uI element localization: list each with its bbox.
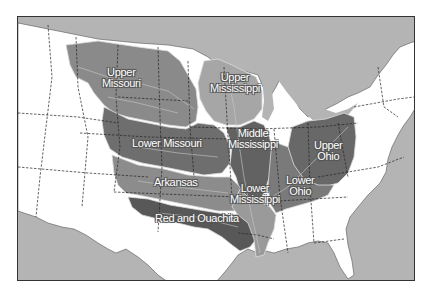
label-line: Mississippi (210, 83, 260, 94)
label-lower-ohio: Lower Ohio (286, 175, 314, 197)
label-arkansas: Arkansas (154, 177, 197, 188)
label-line: Missouri (102, 78, 141, 89)
label-upper-ohio: Upper Ohio (314, 140, 342, 162)
label-line: Ohio (314, 151, 342, 162)
label-red-and-ouachita: Red and Ouachita (155, 213, 239, 224)
label-lower-mississippi: Lower Mississippi (230, 183, 280, 205)
map-frame: Upper Missouri Upper Mississippi Lower M… (17, 16, 415, 281)
label-upper-missouri: Upper Missouri (102, 67, 141, 89)
label-line: Mississippi (228, 139, 278, 150)
label-line: Red and Ouachita (155, 213, 239, 224)
label-line: Lower Missouri (132, 138, 202, 149)
label-middle-mississippi: Middle Mississippi (228, 128, 278, 150)
label-line: Arkansas (154, 177, 197, 188)
basin-map (18, 17, 415, 281)
label-line: Ohio (286, 186, 314, 197)
label-line: Mississippi (230, 194, 280, 205)
label-lower-missouri: Lower Missouri (132, 138, 202, 149)
label-upper-mississippi: Upper Mississippi (210, 72, 260, 94)
